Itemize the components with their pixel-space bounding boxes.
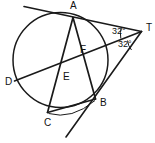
point-label-b: B — [100, 97, 107, 108]
angle-label-ftb: 32° — [118, 39, 132, 49]
geometry-figure: A B C D E F T 32° 32° — [0, 0, 155, 143]
geometry-diagram-canvas: A B C D E F T 32° 32° — [0, 0, 155, 143]
chord-a-c-line — [48, 18, 74, 113]
point-label-c: C — [44, 117, 51, 128]
point-label-t: T — [146, 22, 152, 33]
vertex-labels-group: A B C D E F T — [5, 0, 152, 128]
chord-a-b-line — [73, 18, 96, 100]
point-label-a: A — [70, 0, 77, 11]
point-label-f: F — [80, 44, 86, 55]
point-label-e: E — [63, 71, 70, 82]
angle-label-atf: 32° — [112, 26, 126, 36]
point-label-d: D — [5, 76, 12, 87]
